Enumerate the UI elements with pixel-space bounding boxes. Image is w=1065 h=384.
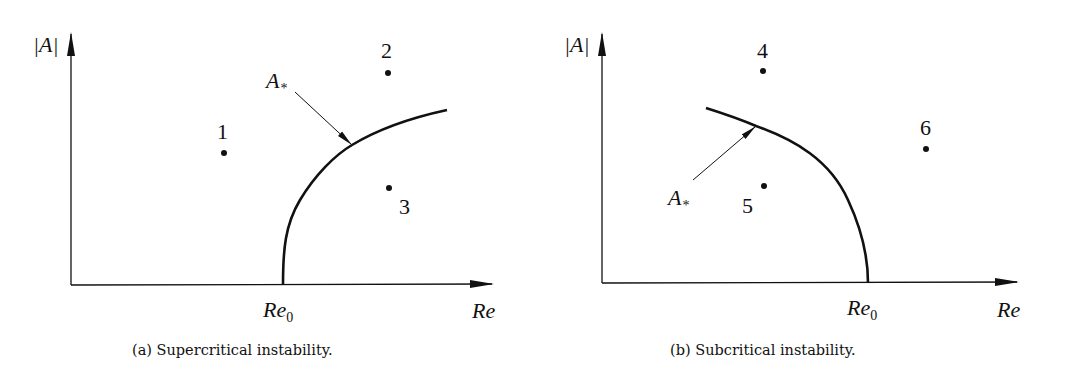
panel-a-point-2 (385, 70, 391, 76)
panel-a-point-3 (386, 185, 392, 191)
panel-b-point-6-label: 6 (920, 115, 931, 140)
panel-a-astar-arrow (295, 92, 351, 144)
panel-a-caption: (a) Supercritical instability. (132, 342, 333, 358)
panel-a-point-3-label: 3 (399, 194, 410, 219)
panel-b-point-5-label: 5 (742, 193, 753, 218)
panel-a-astar-label: A* (264, 68, 287, 96)
panel-b-neutral-curve (706, 108, 868, 283)
panel-b-point-6 (923, 146, 929, 152)
panel-b-point-4-label: 4 (757, 38, 768, 63)
panel-a-y-axis-label: |A| (33, 32, 59, 57)
panel-b-re0-label: Re0 (846, 295, 877, 323)
panel-b-astar-label: A* (666, 185, 689, 213)
panel-b-astar-arrow (693, 127, 755, 180)
panel-b-point-4 (760, 68, 766, 74)
panel-b-caption: (b) Subcritical instability. (670, 342, 856, 358)
panel-a-point-2-label: 2 (381, 38, 392, 63)
panel-a-point-1 (221, 150, 227, 156)
panel-b-subcritical: |A| Re Re0 A* 4 5 6 (564, 32, 1020, 323)
bifurcation-figure: |A| Re Re0 A* 1 2 3 |A| Re Re0 A* 4 5 (0, 0, 1065, 384)
panel-a-re0-label: Re0 (262, 297, 293, 325)
panel-b-x-axis-label: Re (996, 297, 1020, 322)
panel-a-neutral-curve (283, 110, 447, 285)
panel-a-supercritical: |A| Re Re0 A* 1 2 3 (33, 32, 495, 325)
panel-b-y-axis-label: |A| (564, 32, 590, 57)
panel-a-x-axis (71, 284, 492, 285)
panel-b-x-axis (602, 282, 1017, 283)
panel-a-point-1-label: 1 (217, 119, 228, 144)
panel-a-x-axis-label: Re (471, 298, 495, 323)
panel-b-point-5 (761, 183, 767, 189)
